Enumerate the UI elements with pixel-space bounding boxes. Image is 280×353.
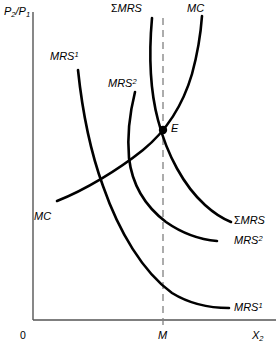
curve-label-mc-top: MC: [187, 3, 204, 14]
curve-mrs2: [128, 92, 217, 241]
x-tick-label-m: M: [158, 330, 167, 341]
equilibrium-point-marker: [159, 126, 167, 134]
curve-label-mrs2-top-text: MRS: [108, 77, 132, 89]
public-goods-equilibrium-chart: P2/P1 X2 0 M E MRS1 MRS2 ΣMRS MC MC ΣMRS…: [0, 0, 280, 353]
curve-label-mrs2-right-sup: 2: [258, 234, 262, 243]
x-axis-label: X2: [252, 330, 264, 342]
y-axis-label: P2/P1: [4, 6, 30, 18]
y-axis-label-denominator-sub: 1: [26, 10, 30, 19]
curve-label-mrs1-top: MRS1: [50, 51, 79, 62]
curve-label-mrs1-right-text: MRS: [234, 301, 258, 313]
curve-label-mrs2-right: MRS2: [234, 235, 263, 246]
x-axis-label-sub: 2: [259, 334, 263, 343]
y-axis-label-denominator: /P: [16, 5, 26, 17]
curve-label-mrs2-top: MRS2: [108, 78, 137, 89]
curve-label-sum-mrs-top: ΣMRS: [111, 3, 142, 14]
curve-label-sum-mrs-top-text: MRS: [118, 2, 142, 14]
curve-label-mrs1-top-sup: 1: [74, 50, 78, 59]
curve-label-mrs2-right-text: MRS: [234, 234, 258, 246]
curve-label-mrs1-right-sup: 1: [258, 301, 262, 310]
curve-label-mc-left: MC: [34, 211, 51, 222]
curve-label-mrs1-top-text: MRS: [50, 50, 74, 62]
equilibrium-label-e: E: [171, 123, 178, 134]
curve-label-sum-mrs-right-text: MRS: [241, 214, 265, 226]
curve-label-mrs1-right: MRS1: [234, 302, 263, 313]
curve-label-mrs2-top-sup: 2: [132, 77, 136, 86]
origin-label: 0: [20, 330, 26, 341]
curve-label-sum-mrs-right: ΣMRS: [234, 215, 265, 226]
